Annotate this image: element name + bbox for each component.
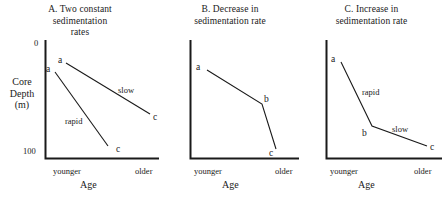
panel-a-axes: [46, 40, 160, 159]
panel-a-rapid-annotation: rapid: [65, 116, 82, 126]
panel-a-ytick-0: 0: [34, 38, 38, 48]
panel-c-point-b: b: [362, 128, 367, 138]
panel-b-curve: [207, 70, 276, 149]
panel-a-y-axis-title-line1: Core: [2, 76, 42, 88]
panel-c: C. Increase in sedimentation rate a b c …: [300, 0, 443, 202]
panel-a-x-axis-title: Age: [80, 180, 97, 190]
panel-c-point-a: a: [331, 54, 335, 64]
panel-a-point-c-slow: c: [153, 112, 157, 122]
panel-a-y-axis-title-line2: Depth: [2, 88, 42, 100]
panel-c-axes: [327, 40, 443, 159]
panel-a-slow-line: [66, 63, 150, 114]
panel-a-y-axis-title-line3: (m): [2, 99, 42, 111]
panel-a-point-c-rapid: c: [116, 144, 120, 154]
panel-c-rapid-annotation: rapid: [362, 87, 379, 97]
panel-a-ytick-100: 100: [23, 146, 36, 156]
panel-a-point-a-slow: a: [58, 55, 62, 65]
panel-b-xtick-younger: younger: [194, 166, 222, 176]
panel-b-xtick-older: older: [275, 166, 292, 176]
panel-b-point-c: c: [269, 148, 273, 158]
panel-a: A. Two constant sedimentation rates Core…: [0, 0, 160, 202]
panel-a-slow-annotation: slow: [118, 85, 134, 95]
panel-c-point-c: c: [430, 142, 434, 152]
panel-a-xtick-older: older: [135, 166, 152, 176]
panel-b-point-a: a: [196, 62, 200, 72]
panel-c-x-axis-title: Age: [358, 180, 375, 190]
panel-a-y-axis-title: Core Depth (m): [2, 76, 42, 111]
panel-c-xtick-younger: younger: [330, 166, 358, 176]
sedimentation-rate-figure: A. Two constant sedimentation rates Core…: [0, 0, 443, 202]
panel-b-x-axis-title: Age: [222, 180, 239, 190]
panel-b-point-b: b: [264, 94, 269, 104]
panel-c-xtick-older: older: [414, 166, 431, 176]
panel-c-slow-annotation: slow: [392, 124, 408, 134]
panel-c-curve: [341, 62, 427, 146]
panel-a-xtick-younger: younger: [53, 166, 81, 176]
panel-b: B. Decrease in sedimentation rate a b c …: [160, 0, 300, 202]
panel-b-axes: [191, 40, 300, 159]
panel-a-point-a-rapid: a: [46, 64, 50, 74]
